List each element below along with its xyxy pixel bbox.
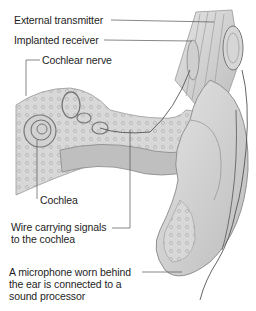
label-cochlea: Cochlea: [40, 194, 78, 206]
label-wire: Wire carrying signals to the cochlea: [11, 221, 106, 245]
label-implanted-receiver: Implanted receiver: [14, 34, 99, 46]
label-microphone: A microphone worn behind the ear is conn…: [9, 266, 131, 302]
label-wire-line-1: Wire carrying signals: [11, 221, 106, 233]
label-external-transmitter: External transmitter: [14, 14, 103, 26]
cochlea-spiral: [24, 115, 56, 147]
cochlear-implant-diagram: External transmitter Implanted receiver …: [0, 0, 256, 311]
label-microphone-line-3: sound processor: [9, 290, 131, 302]
label-microphone-line-1: A microphone worn behind: [9, 266, 131, 278]
label-cochlear-nerve: Cochlear nerve: [42, 54, 112, 66]
label-wire-line-2: to the cochlea: [11, 233, 106, 245]
external-transmitter-device: [223, 26, 243, 70]
ear-anatomy-illustration: [0, 0, 256, 311]
label-microphone-line-2: the ear is connected to a: [9, 278, 131, 290]
